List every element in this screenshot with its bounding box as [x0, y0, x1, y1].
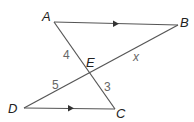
length-label-ec: 3	[104, 80, 111, 94]
length-label-eb: x	[132, 50, 140, 64]
segment-bd	[24, 25, 178, 108]
similar-triangles-diagram: A B E D C 4 x 5 3	[0, 0, 194, 122]
parallel-arrow-icon	[113, 21, 119, 28]
point-label-c: C	[116, 106, 126, 121]
point-label-d: D	[8, 101, 17, 116]
length-label-ae: 4	[63, 48, 70, 62]
point-label-e: E	[86, 55, 95, 70]
parallel-arrow-icon	[68, 105, 74, 112]
segment-ac	[54, 22, 115, 109]
length-label-de: 5	[52, 78, 59, 92]
point-label-a: A	[41, 9, 51, 24]
point-label-b: B	[180, 15, 189, 30]
